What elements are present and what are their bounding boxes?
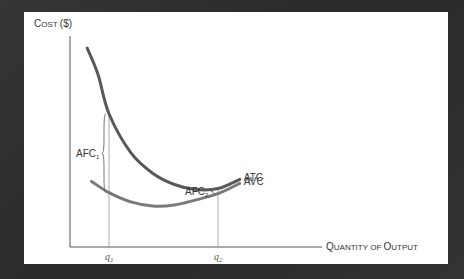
- y-axis-label: COST ($): [34, 18, 72, 29]
- chart-svg: q1q2 ATCAVC AFC1AFC2 COST ($) QUANTITY O…: [0, 0, 464, 279]
- brace-afc1: [102, 114, 106, 193]
- annotation-afc1: AFC1: [76, 148, 100, 160]
- x-tick-label-q2: q2: [214, 251, 223, 264]
- annotation-afc2: AFC2: [185, 186, 209, 198]
- series-label-avc: AVC: [244, 176, 264, 187]
- x-tick-label-q1: q1: [105, 251, 114, 264]
- series-line-avc: [92, 181, 240, 206]
- series-line-atc: [87, 48, 240, 190]
- x-axis-label: QUANTITY OF OUTPUT: [326, 241, 418, 252]
